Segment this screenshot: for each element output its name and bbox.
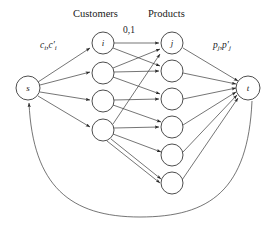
node-customer-3-circle[interactable]	[92, 90, 114, 112]
column-title-products: Products	[148, 8, 185, 19]
edge-source-customer-2	[40, 72, 90, 85]
node-product-2-circle[interactable]	[161, 60, 183, 82]
edge-source-customer-1	[38, 48, 90, 82]
edge-label-middle-capacity: 0,1	[123, 25, 135, 35]
edge-customer4-product6	[111, 139, 161, 179]
edge-customer2-product1	[113, 49, 160, 68]
sink-cap-sub1: j	[218, 44, 220, 52]
source-cap-sub1: i	[44, 44, 46, 52]
edge-group-source-to-customers	[38, 48, 90, 127]
edge-product1-sink	[183, 48, 238, 81]
node-product-5-circle[interactable]	[161, 144, 183, 166]
edge-product5-sink	[183, 95, 237, 152]
edge-source-customer-4	[38, 96, 90, 127]
node-product-6-circle[interactable]	[161, 172, 183, 194]
edge-customer1-product2	[113, 48, 160, 66]
edge-group-customers-to-products	[107, 43, 161, 183]
node-group-sink: t	[236, 76, 260, 100]
edge-sink-to-source-return-arc	[29, 101, 252, 217]
edge-source-customer-3	[40, 92, 90, 100]
sink-cap-sub2: j	[229, 44, 231, 52]
node-product-1-label: j	[170, 38, 174, 48]
flow-network-figure: s i j t	[0, 0, 274, 227]
node-group-products: j	[161, 32, 183, 194]
edge-group-products-to-sink	[182, 48, 238, 180]
edge-label-source-capacity: ci,c′i	[40, 40, 57, 52]
edge-customer3-product3	[114, 99, 159, 100]
node-product-3-circle[interactable]	[161, 88, 183, 110]
edge-product6-sink	[182, 98, 238, 180]
node-product-4-circle[interactable]	[161, 116, 183, 138]
source-cap-sub2: i	[55, 44, 57, 52]
source-cap-c2: c	[49, 40, 53, 50]
column-title-customers: Customers	[73, 8, 118, 19]
edge-customer4-product5	[113, 134, 161, 152]
node-group-customers: i	[92, 32, 114, 141]
graph-canvas: s i j t	[0, 0, 274, 227]
edge-product4-sink	[183, 92, 236, 125]
edge-customer2-product3	[113, 77, 160, 94]
node-source-label: s	[26, 83, 30, 93]
edge-customer4-product6-alt	[107, 141, 160, 183]
node-customer-2-circle[interactable]	[92, 62, 114, 84]
edge-customer2-product2	[114, 71, 159, 72]
node-group-source: s	[16, 76, 40, 100]
edge-label-sink-capacity: pj,p′j	[213, 40, 231, 52]
sink-cap-p2: p	[222, 40, 227, 50]
edge-customer4-product4	[114, 127, 159, 128]
node-customer-4-circle[interactable]	[92, 119, 114, 141]
